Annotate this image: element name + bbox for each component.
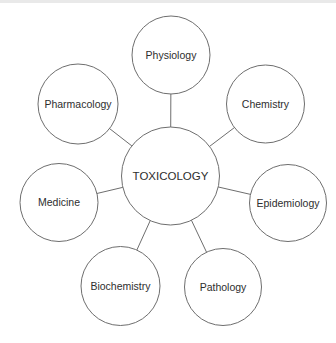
- node-label-chemistry: Chemistry: [242, 98, 290, 110]
- figure-page: TOXICOLOGYPhysiologyChemistryEpidemiolog…: [0, 0, 336, 343]
- toxicology-concept-diagram: TOXICOLOGYPhysiologyChemistryEpidemiolog…: [0, 0, 336, 343]
- hub-label-toxicology: TOXICOLOGY: [133, 170, 209, 182]
- node-label-physiology: Physiology: [146, 49, 198, 61]
- node-label-medicine: Medicine: [38, 196, 80, 208]
- node-label-epidemiology: Epidemiology: [256, 197, 320, 209]
- node-label-pathology: Pathology: [200, 281, 247, 293]
- node-label-pharmacology: Pharmacology: [44, 98, 112, 110]
- node-label-biochemistry: Biochemistry: [90, 280, 151, 292]
